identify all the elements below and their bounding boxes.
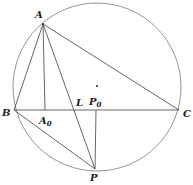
segment-AA0 (43, 24, 45, 110)
point-A-dot (42, 23, 44, 25)
label-L: L (75, 97, 83, 108)
label-A0: A0 (38, 115, 52, 128)
label-A: A (34, 9, 43, 20)
center-dot (96, 85, 98, 87)
label-B: B (1, 107, 10, 118)
segment-AC (43, 24, 179, 110)
segment-AP (43, 24, 95, 169)
label-P0: P0 (88, 96, 102, 109)
label-C: C (183, 108, 191, 119)
segment-P0P (95, 110, 96, 169)
label-P: P (89, 172, 98, 183)
geometry-diagram: A B C A0 L P0 P (0, 0, 193, 185)
segment-AB (14, 24, 43, 110)
segment-BP (14, 110, 95, 169)
